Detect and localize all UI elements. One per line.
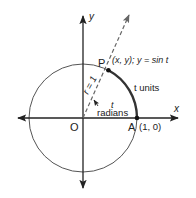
x-axis-label: x [173, 103, 180, 114]
unit-circle-diagram: y x O A (1, 0) P (x, y); y = sin t t uni… [0, 0, 196, 198]
point-p-desc: (x, y); y = sin t [112, 55, 169, 65]
y-axis-label: y [88, 11, 95, 22]
terminal-ray [83, 15, 129, 118]
arc-length-label: t units [134, 82, 160, 93]
point-a-label: A [128, 121, 136, 133]
point-p-label: P [98, 57, 105, 69]
point-a-coords: (1, 0) [139, 121, 161, 132]
point-p-dot [106, 68, 111, 73]
angle-pointer [94, 100, 98, 106]
point-a-dot [135, 116, 140, 121]
origin-label: O [70, 121, 79, 133]
angle-unit-label: radians [97, 107, 128, 118]
